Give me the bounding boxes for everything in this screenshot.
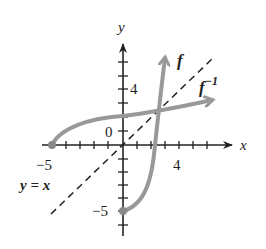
function-start-dot xyxy=(119,207,127,215)
tick-label-y4: 4 xyxy=(130,81,138,97)
identity-label: y = x xyxy=(18,177,51,193)
inverse-start-dot xyxy=(48,141,56,149)
tick-label-y0: 0 xyxy=(105,124,113,140)
x-axis xyxy=(42,141,232,149)
graph: y x 4 0 −5 −5 4 f f−1 y = x xyxy=(0,0,266,249)
function-label: f xyxy=(177,51,185,70)
tick-label-ym5: −5 xyxy=(92,203,108,219)
x-axis-label: x xyxy=(239,137,247,153)
y-axis-label: y xyxy=(116,19,125,35)
tick-label-xm5: −5 xyxy=(36,157,52,173)
inverse-function-label: f−1 xyxy=(199,74,218,97)
inverse-function-curve xyxy=(52,100,212,145)
tick-label-x4: 4 xyxy=(173,157,181,173)
